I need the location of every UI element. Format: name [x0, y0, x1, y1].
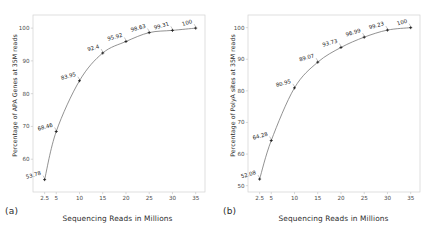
- x-tick-label: 5: [269, 195, 273, 201]
- y-tick-label: 70: [22, 123, 30, 129]
- data-point-label: 95.92: [107, 32, 123, 42]
- data-point: [363, 36, 366, 39]
- data-point-label: 80.95: [275, 78, 291, 88]
- data-point-label: 83.95: [60, 71, 76, 81]
- data-point: [270, 139, 273, 142]
- x-tick-label: 10: [291, 195, 299, 201]
- x-tick-label: 5: [54, 195, 58, 201]
- data-point: [171, 29, 174, 32]
- chart-panel-b: Percentage of PolyA sites at 35M reads 5…: [218, 0, 435, 229]
- x-axis-label-b: Sequencing Reads in Millions: [218, 214, 435, 223]
- x-tick-label: 2.5: [40, 195, 49, 201]
- data-point-label: 92.4: [87, 43, 101, 52]
- y-tick-label: 100: [234, 25, 245, 31]
- data-point-label: 64.28: [252, 131, 269, 141]
- figure-container: Percentage of APA Genes at 35M reads 607…: [0, 0, 435, 229]
- data-series-line: [260, 28, 411, 179]
- y-tick-label: 50: [237, 183, 245, 189]
- x-tick-label: 30: [169, 195, 177, 201]
- y-tick-label: 80: [22, 91, 30, 97]
- panel-tag-b: (b): [223, 206, 236, 216]
- data-point: [339, 46, 342, 49]
- data-point-label: 53.78: [25, 170, 42, 180]
- data-point-label: 100: [396, 18, 408, 27]
- y-tick-label: 60: [237, 151, 245, 157]
- y-tick-label: 90: [237, 56, 245, 62]
- data-point-label: 93.73: [322, 38, 338, 48]
- data-point: [409, 26, 412, 29]
- data-point-label: 89.07: [298, 52, 314, 62]
- data-point-label: 99.23: [368, 20, 384, 30]
- data-point: [148, 31, 151, 34]
- y-tick-label: 90: [22, 58, 30, 64]
- data-point: [194, 27, 197, 30]
- x-tick-label: 35: [407, 195, 415, 201]
- y-tick-label: 70: [237, 119, 245, 125]
- x-tick-label: 25: [146, 195, 154, 201]
- data-point: [258, 178, 261, 181]
- x-tick-label: 20: [337, 195, 345, 201]
- x-tick-label: 25: [361, 195, 369, 201]
- x-axis-label-a: Sequencing Reads in Millions: [0, 214, 217, 223]
- data-series-line: [45, 28, 196, 180]
- plot-area-a: 607080901002.5510152025303553.7868.4683.…: [0, 0, 217, 229]
- data-point-label: 99.31: [153, 21, 169, 31]
- plot-area-b: 50607080901002.5510152025303552.0864.288…: [218, 0, 435, 229]
- data-point: [55, 130, 58, 133]
- x-tick-label: 2.5: [255, 195, 264, 201]
- x-tick-label: 35: [192, 195, 200, 201]
- x-tick-label: 30: [384, 195, 392, 201]
- x-tick-label: 15: [99, 195, 107, 201]
- y-tick-label: 100: [19, 25, 30, 31]
- x-tick-label: 10: [76, 195, 84, 201]
- data-point-label: 52.08: [240, 169, 257, 179]
- x-tick-label: 15: [314, 195, 322, 201]
- data-point-label: 96.99: [345, 27, 362, 37]
- data-point: [124, 40, 127, 43]
- data-point-label: 100: [181, 18, 193, 27]
- data-point: [43, 178, 46, 181]
- panel-tag-a: (a): [5, 206, 18, 216]
- x-tick-label: 20: [122, 195, 130, 201]
- y-tick-label: 80: [237, 88, 245, 94]
- data-point-label: 98.63: [130, 23, 146, 33]
- chart-panel-a: Percentage of APA Genes at 35M reads 607…: [0, 0, 217, 229]
- data-point: [386, 29, 389, 32]
- data-point-label: 68.46: [37, 122, 54, 132]
- y-tick-label: 60: [22, 156, 30, 162]
